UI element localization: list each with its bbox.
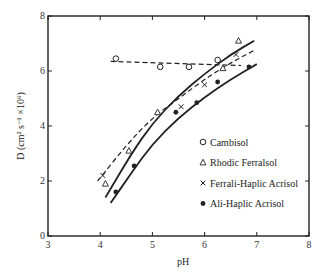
- ali-haplic-acrisol-point: [247, 64, 252, 69]
- rhodic-ferralsol-point: [126, 148, 132, 154]
- legend-label-ali-haplic-acrisol: Ali-Haplic Acrisol: [210, 198, 284, 209]
- y-axis-label: D (cm² s⁻¹ ×10⁶): [15, 92, 27, 160]
- cambisol-point: [113, 56, 119, 62]
- ali-haplic-acrisol-point: [215, 80, 220, 85]
- chart: 34567802468 CambisolRhodic FerralsolFerr…: [0, 0, 327, 276]
- x-axis-label: pH: [177, 256, 189, 267]
- cambisol-point: [157, 64, 163, 70]
- ferrali-haplic-acrisol-point: [234, 52, 239, 57]
- ali-haplic-acrisol-point: [113, 190, 118, 195]
- plot-area: 34567802468: [40, 10, 312, 250]
- legend: CambisolRhodic FerralsolFerrali-Haplic A…: [200, 137, 298, 210]
- y-tick-label: 6: [40, 65, 45, 76]
- ali-haplic-acrisol-point: [194, 100, 199, 105]
- rhodic-ferralsol-point: [236, 38, 242, 44]
- x-tick-label: 5: [150, 239, 155, 250]
- cambisol-point: [215, 57, 221, 63]
- ali-haplic-acrisol-legend-icon: [201, 201, 206, 206]
- legend-label-cambisol: Cambisol: [210, 137, 249, 148]
- cambisol-legend-icon: [200, 139, 206, 145]
- y-tick-label: 4: [40, 120, 45, 131]
- y-tick-label: 2: [40, 175, 45, 186]
- x-tick-label: 7: [254, 239, 259, 250]
- rhodic-ferralsol-legend-icon: [200, 159, 206, 165]
- x-tick-label: 6: [202, 239, 207, 250]
- ferrali-haplic-acrisol-point: [202, 82, 207, 87]
- cambisol-point: [186, 64, 192, 70]
- ali-haplic-acrisol-point: [132, 163, 137, 168]
- rhodic-ferralsol-point: [102, 181, 108, 187]
- ferrali-haplic-acrisol-legend-icon: [201, 181, 206, 186]
- legend-label-ferrali-haplic-acrisol: Ferrali-Haplic Acrisol: [210, 178, 298, 189]
- ferrali-haplic-acrisol-point: [179, 104, 184, 109]
- y-tick-label: 0: [40, 230, 45, 241]
- x-tick-label: 8: [307, 239, 312, 250]
- x-tick-label: 4: [98, 239, 103, 250]
- legend-label-rhodic-ferralsol: Rhodic Ferralsol: [210, 157, 277, 168]
- ali-haplic-acrisol-point: [173, 110, 178, 115]
- rhodic-ferralsol-fit-line: [105, 41, 254, 198]
- x-tick-label: 3: [46, 239, 51, 250]
- y-tick-label: 8: [40, 10, 45, 21]
